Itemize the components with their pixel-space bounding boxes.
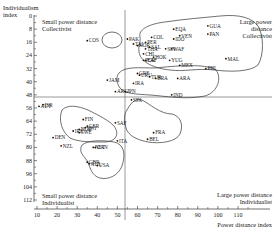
point-label: EQA (175, 26, 186, 32)
point-label: SWE (81, 129, 92, 135)
point-label: EAF (147, 57, 157, 63)
x-tick-label: 110 (234, 212, 243, 218)
data-point-aut: AUT (38, 103, 52, 109)
y-tick-label: 88 (26, 158, 32, 164)
x-tick-label: 50 (114, 212, 120, 218)
data-point-jpn: JPN (125, 88, 136, 94)
x-ticks: 102030405060708090100110 (34, 206, 248, 218)
x-axis-title: Power distance index (217, 221, 272, 228)
y-tick-label: 56 (26, 105, 32, 111)
y-tick-label: 72 (26, 131, 32, 137)
quadrant-label-tl: Small power distance (42, 18, 97, 25)
point-label: DEN (55, 134, 66, 140)
cluster-cos (102, 32, 122, 48)
data-point-ara: ARA (177, 75, 191, 81)
point-label: PHI (207, 65, 216, 71)
y-tick-label: 104 (23, 184, 32, 190)
data-point-fin: FIN (82, 116, 93, 122)
point-label: PAN (209, 31, 219, 37)
point-label: AUT (41, 103, 52, 109)
y-tick-label: 0 (29, 13, 32, 19)
y-tick-label: 32 (26, 66, 32, 72)
data-point-den: DEN (52, 134, 65, 140)
point-label: NZL (63, 143, 73, 149)
x-tick-label: 70 (155, 212, 161, 218)
data-point-mal: MAL (225, 56, 239, 62)
data-point-ira: IRA (133, 80, 145, 86)
point-label: CAN (97, 144, 108, 150)
data-point-nzl: NZL (60, 143, 73, 149)
y-tick-label: 96 (26, 171, 32, 177)
scatter-chart: Individualism index 08162432404856647280… (0, 0, 278, 237)
x-tick-label: 10 (34, 212, 40, 218)
point-label: ITA (119, 138, 127, 144)
point-label: USA (99, 162, 110, 168)
quadrant-label-tr: Collectivist (243, 32, 273, 39)
quadrant-label-tr: Large power (240, 18, 273, 25)
y-tick-label: 24 (26, 52, 32, 58)
data-point-jam: JAM (106, 77, 119, 83)
x-tick-label: 90 (195, 212, 201, 218)
point-label: IND (173, 92, 182, 98)
y-axis-title: Individualism (3, 4, 39, 11)
point-label: MAL (228, 56, 240, 62)
data-point-mex: MEX (179, 62, 193, 68)
quadrant-label-bl: Small power distance (42, 192, 97, 199)
point-label: FRA (155, 129, 165, 135)
point-label: MEX (181, 62, 193, 68)
data-point-pan: PAN (207, 31, 220, 37)
data-point-fra: FRA (153, 129, 166, 135)
data-point-bra: BRA (155, 75, 168, 81)
data-point-phi: PHI (205, 65, 216, 71)
data-point-gua: GUA (207, 23, 221, 29)
point-label: CHL (145, 51, 155, 57)
x-tick-label: 80 (175, 212, 181, 218)
y-tick-label: 40 (26, 79, 32, 85)
data-point-ita: ITA (117, 138, 128, 144)
data-point-ido: IDO (173, 36, 185, 42)
x-tick-label: 60 (135, 212, 141, 218)
point-label: JPN (127, 88, 136, 94)
quadrant-label-br: Large power distance (217, 191, 272, 198)
point-label: JAM (109, 77, 120, 83)
data-points: COSPAKCOLEQAVENIDOGUAPANTAIPERSALSINWAFK… (38, 23, 239, 169)
data-point-spa: SPA (131, 97, 143, 103)
y-tick-label: 16 (26, 39, 32, 45)
y-tick-label: 112 (23, 197, 32, 203)
data-point-waf: WAF (171, 46, 185, 52)
point-label: FIN (85, 116, 94, 122)
data-point-usa: USA (96, 162, 109, 168)
y-ticks: 081624324048566472808896104112 (23, 13, 37, 203)
quadrant-label-tl: Collectivist (42, 25, 72, 32)
point-label: SPA (133, 97, 142, 103)
point-label: GUA (209, 23, 220, 29)
point-label: ARA (179, 75, 190, 81)
data-point-saf: SAF (114, 120, 126, 126)
y-tick-label: 8 (29, 26, 32, 32)
data-point-chl: CHL (143, 51, 156, 57)
data-point-eaf: EAF (145, 57, 157, 63)
data-point-ind: IND (171, 92, 183, 98)
data-point-can: CAN (94, 144, 108, 150)
y-tick-label: 64 (26, 118, 32, 124)
y-tick-label: 48 (26, 92, 32, 98)
x-tick-label: 100 (213, 212, 222, 218)
point-label: BRA (157, 75, 168, 81)
point-label: SAF (117, 120, 127, 126)
data-point-swe: SWE (78, 129, 91, 135)
point-label: BEL (149, 136, 159, 142)
point-label: IRA (135, 80, 144, 86)
y-axis-title-line2: index (3, 11, 18, 18)
point-label: COS (89, 37, 99, 43)
x-tick-label: 20 (54, 212, 60, 218)
quadrant-label-bl: Individualist (42, 199, 75, 206)
data-point-bel: BEL (147, 136, 159, 142)
y-tick-label: 80 (26, 144, 32, 150)
quadrant-label-br: Individualist (240, 198, 273, 205)
point-label: WAF (173, 46, 184, 52)
data-point-eqa: EQA (173, 26, 186, 32)
point-label: IDO (175, 36, 184, 42)
quadrant-label-tr: distance (251, 25, 272, 32)
x-tick-label: 40 (94, 212, 100, 218)
x-tick-label: 30 (74, 212, 80, 218)
